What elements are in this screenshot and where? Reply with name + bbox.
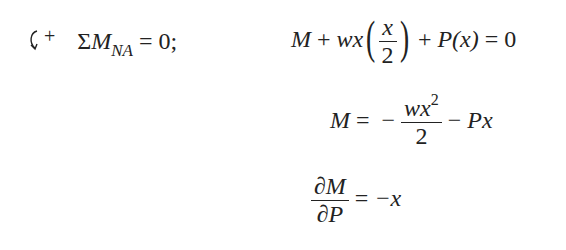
var-wx: wx	[337, 26, 364, 52]
var-P: P	[437, 26, 452, 52]
plus-sign: +	[418, 26, 432, 52]
sign-convention: +	[44, 25, 55, 47]
plus-sign: +	[317, 26, 331, 52]
var-Px: Px	[467, 107, 492, 133]
left-paren: (	[366, 11, 375, 65]
moment-subscript: NA	[111, 41, 133, 60]
equation-line-2: M = − wx22 − Px	[330, 93, 493, 149]
right-paren: )	[400, 11, 409, 65]
equation-line-3: ∂M∂P = −x	[311, 168, 401, 228]
arg-x: (x)	[452, 26, 479, 52]
equals-sign: =	[356, 107, 370, 133]
var-M: M	[291, 26, 311, 52]
minus-sign: −	[382, 107, 396, 133]
counterclockwise-moment-arrow-icon	[28, 29, 44, 53]
line1-rhs: = 0	[485, 26, 517, 52]
moment-symbol: M	[91, 28, 111, 54]
sigma-symbol: Σ	[77, 28, 91, 54]
equals-sign: =	[355, 185, 369, 211]
fraction-wx2-over-2: wx22	[401, 96, 442, 149]
fraction-dM-dP: ∂M∂P	[311, 174, 349, 227]
sum-rhs: = 0;	[139, 28, 177, 54]
moment-equilibrium-label: + ΣMNA = 0;	[28, 25, 177, 55]
equation-line-1: M + wx(x2) + P(x) = 0	[291, 12, 516, 68]
fraction-x-over-2: x2	[379, 15, 397, 68]
minus-sign: −	[448, 107, 462, 133]
var-M: M	[330, 107, 350, 133]
line3-rhs: −x	[374, 185, 401, 211]
